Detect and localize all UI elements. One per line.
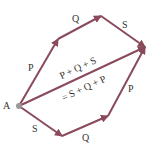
point-a (16, 103, 22, 109)
label-bottom-s: S (32, 124, 38, 134)
arrow-bottom-s (19, 106, 62, 136)
label-a: A (3, 101, 10, 111)
arrow-resultant (19, 47, 145, 106)
vector-diagram: A P Q S S Q P P + Q + S = S + Q + P (0, 0, 149, 146)
label-top-q: Q (72, 14, 79, 24)
arrow-top-q (58, 16, 101, 39)
arrow-bottom-p (108, 47, 145, 116)
label-bottom-p: P (128, 84, 134, 94)
label-top-s: S (122, 20, 128, 30)
label-bottom-q: Q (82, 133, 89, 143)
label-top-p: P (28, 63, 34, 73)
